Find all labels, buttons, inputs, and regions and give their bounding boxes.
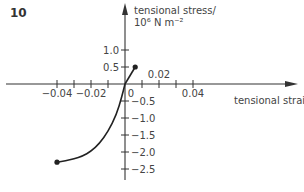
tension-line — [125, 67, 135, 84]
x-tick-label: 0.04 — [182, 88, 204, 99]
y-tick-label: 1.0 — [103, 45, 119, 56]
end-point-marker — [133, 64, 138, 69]
y-tick-label: −1.5 — [131, 130, 155, 141]
end-point-marker — [54, 160, 59, 165]
x-axis-arrow-icon — [285, 81, 298, 87]
y-tick-label: −0.5 — [131, 96, 155, 107]
x-tick-label: −0.04 — [42, 88, 73, 99]
y-tick-label: −2.5 — [131, 164, 155, 175]
x-tick-label: −0.02 — [76, 88, 107, 99]
y-tick-label: −1.0 — [131, 113, 155, 124]
x-tick-label: 0.02 — [148, 69, 170, 80]
y-tick-label: 0.5 — [103, 62, 119, 73]
ticks: −0.04−0.0200.020.041.00.5−0.5−1.0−1.5−2.… — [42, 45, 204, 175]
stress-strain-chart: −0.04−0.0200.020.041.00.5−0.5−1.0−1.5−2.… — [0, 0, 304, 192]
y-axis-arrow-icon — [122, 3, 128, 15]
y-tick-label: −2.0 — [131, 147, 155, 158]
